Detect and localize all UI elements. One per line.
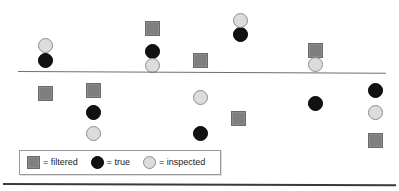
true-circle-marker — [86, 105, 101, 120]
inspected-circle-marker — [193, 90, 208, 105]
inspected-circle-marker — [308, 57, 323, 72]
filtered-square-icon — [27, 156, 40, 169]
bottom-border-rule — [3, 183, 396, 186]
inspected-circle-marker — [368, 105, 383, 120]
true-circle-marker — [193, 126, 208, 141]
inspected-circle-marker — [86, 126, 101, 141]
true-circle-icon — [91, 156, 104, 169]
legend: = filtered = true = inspected — [19, 150, 221, 175]
inspected-circle-marker — [38, 38, 53, 53]
true-circle-marker — [368, 83, 383, 98]
true-circle-marker — [38, 53, 53, 68]
legend-label-inspected: = inspected — [159, 158, 205, 167]
legend-entry-inspected: = inspected — [143, 156, 205, 169]
filtered-square-marker — [231, 111, 246, 126]
filtered-square-marker — [368, 133, 383, 148]
inspected-circle-icon — [143, 156, 156, 169]
filtered-square-marker — [193, 53, 208, 68]
filtered-square-marker — [145, 21, 160, 36]
horizontal-separator-line — [18, 71, 386, 74]
inspected-circle-marker — [233, 13, 248, 28]
filtered-square-marker — [308, 43, 323, 58]
true-circle-marker — [145, 44, 160, 59]
legend-entry-filtered: = filtered — [27, 156, 78, 169]
scatter-figure: = filtered = true = inspected — [0, 0, 399, 191]
legend-entry-true: = true — [91, 156, 130, 169]
filtered-square-marker — [38, 86, 53, 101]
true-circle-marker — [308, 96, 323, 111]
true-circle-marker — [233, 27, 248, 42]
filtered-square-marker — [86, 83, 101, 98]
legend-label-filtered: = filtered — [43, 158, 78, 167]
legend-label-true: = true — [107, 158, 130, 167]
